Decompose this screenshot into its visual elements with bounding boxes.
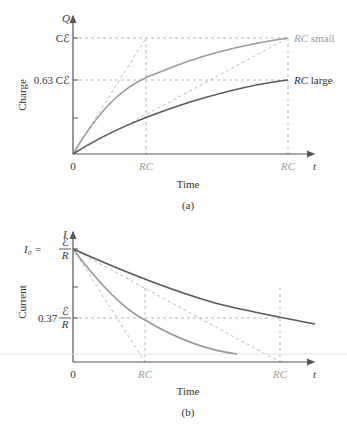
svg-text:ℰ: ℰ [62,305,69,317]
curve-rc-large [73,249,315,324]
svg-text:0.37: 0.37 [38,312,58,324]
x-axis-label: Time [177,178,200,190]
y-axis-label: Current [16,285,28,319]
panel-a: Q Cℰ 0.63 Cℰ Charge 0 RC RC t Time RC sm… [16,12,335,212]
x-tick-rc-large: RC [272,368,288,380]
rc-circuit-figure: Q Cℰ 0.63 Cℰ Charge 0 RC RC t Time RC sm… [0,0,347,431]
y-axis-symbol: Q [62,12,70,24]
caption-b: (b) [182,406,195,419]
svg-text:I₀ =: I₀ = [23,243,42,255]
legend-rc-small: RC small [293,32,335,44]
x-axis-label: Time [177,385,200,397]
x-tick-rc-small: RC [137,368,153,380]
tick-label-037: 0.37 ℰ R [38,305,71,330]
caption-a: (a) [182,199,195,212]
svg-text:R: R [61,318,69,330]
svg-text:R: R [61,249,69,261]
tick-label-i0: I₀ = ℰ R [23,236,71,261]
x-zero-label: 0 [70,368,76,380]
y-axis-label: Charge [16,79,28,111]
guide-lines [73,38,288,154]
guide-lines [73,249,280,362]
x-tick-rc-large: RC [280,160,296,172]
svg-text:ℰ: ℰ [62,236,69,248]
x-zero-label: 0 [70,160,76,172]
legend-rc-large: RC large [293,74,333,86]
panel-b: I I₀ = ℰ R 0.37 ℰ R Current 0 RC RC t Ti… [0,228,347,419]
x-axis-symbol: t [313,160,317,172]
tick-label-ce: Cℰ [56,32,70,44]
curve-rc-large [73,80,288,154]
x-tick-rc-small: RC [138,160,154,172]
x-axis-symbol: t [313,368,317,380]
tick-label-063: 0.63 Cℰ [34,74,70,86]
